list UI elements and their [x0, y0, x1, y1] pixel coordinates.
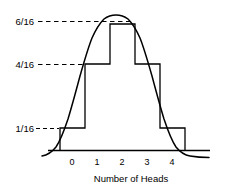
y-label-6-16: 6/16	[16, 16, 35, 27]
x-tick-4: 4	[169, 157, 174, 167]
x-tick-3: 3	[144, 157, 149, 167]
y-label-1-16: 1/16	[16, 123, 35, 134]
normal-curve	[42, 15, 209, 158]
y-label-4-16: 4/16	[16, 59, 35, 70]
x-tick-2: 2	[119, 157, 124, 167]
x-tick-0: 0	[69, 157, 74, 167]
x-axis-tick-labels: 0 1 2 3 4	[69, 157, 174, 167]
binomial-histogram-figure: 6/16 4/16 1/16 0 1 2 3 4 Number of Heads	[0, 0, 240, 190]
x-tick-1: 1	[94, 157, 99, 167]
plot-area: 6/16 4/16 1/16 0 1 2 3 4 Number of Heads	[0, 0, 240, 190]
x-axis-caption: Number of Heads	[94, 173, 169, 184]
histogram-bars	[60, 24, 185, 150]
x-axis-title: Number of Heads	[94, 173, 169, 184]
y-axis-labels: 6/16 4/16 1/16	[16, 16, 35, 134]
